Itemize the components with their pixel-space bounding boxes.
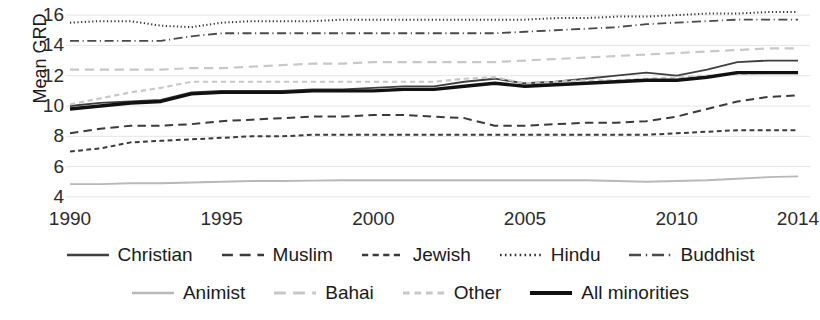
- legend-item-muslim[interactable]: Muslim: [221, 244, 333, 266]
- y-tick-label: 12: [20, 66, 64, 85]
- legend-swatch-line: [402, 286, 446, 300]
- legend-label: Christian: [118, 244, 193, 266]
- legend-item-other[interactable]: Other: [402, 282, 502, 304]
- y-tick-label: 14: [20, 35, 64, 54]
- legend-row-primary: ChristianMuslimJewishHinduBuddhist: [0, 244, 820, 266]
- legend-item-christian[interactable]: Christian: [66, 244, 193, 266]
- series-line-all-minorities: [70, 73, 798, 109]
- y-tick-label: 16: [20, 5, 64, 24]
- legend-label: Muslim: [273, 244, 333, 266]
- y-tick-label: 10: [20, 96, 64, 115]
- gridlines: [66, 15, 810, 197]
- x-tick-label: 1995: [201, 208, 243, 230]
- legend-line-icon: [273, 286, 317, 300]
- series-line-bahai: [70, 48, 798, 69]
- legend-item-jewish[interactable]: Jewish: [361, 244, 471, 266]
- legend-swatch-line: [66, 248, 110, 262]
- legend-row-secondary: AnimistBahaiOtherAll minorities: [0, 282, 820, 304]
- legend-label: All minorities: [581, 282, 689, 304]
- legend-label: Jewish: [413, 244, 471, 266]
- legend-line-icon: [402, 286, 446, 300]
- legend-item-bahai[interactable]: Bahai: [273, 282, 374, 304]
- legend-label: Hindu: [551, 244, 601, 266]
- legend-item-animist[interactable]: Animist: [131, 282, 245, 304]
- legend-swatch-line: [131, 286, 175, 300]
- series-line-buddhist: [70, 20, 798, 41]
- legend-label: Animist: [183, 282, 245, 304]
- x-tick-label: 2005: [504, 208, 546, 230]
- legend-label: Bahai: [325, 282, 374, 304]
- y-tick-label: 4: [20, 187, 64, 206]
- legend-swatch-line: [628, 248, 672, 262]
- y-axis: Mean GRD 16141210864: [8, 0, 64, 215]
- series-line-muslim: [70, 95, 798, 133]
- plot-area: [66, 6, 810, 206]
- legend-line-icon: [66, 248, 110, 262]
- series-line-jewish: [70, 130, 798, 151]
- x-tick-label: 2010: [656, 208, 698, 230]
- chart-canvas: [66, 6, 810, 206]
- x-tick-label: 1990: [49, 208, 91, 230]
- x-tick-label: 2000: [352, 208, 394, 230]
- legend-label: Other: [454, 282, 502, 304]
- y-tick-label: 8: [20, 126, 64, 145]
- legend-line-icon: [131, 286, 175, 300]
- y-tick-label: 6: [20, 157, 64, 176]
- series-line-animist: [70, 176, 798, 184]
- legend-line-icon: [628, 248, 672, 262]
- legend-item-hindu[interactable]: Hindu: [499, 244, 601, 266]
- legend-line-icon: [361, 248, 405, 262]
- legend-item-buddhist[interactable]: Buddhist: [628, 244, 754, 266]
- legend-swatch-line: [499, 248, 543, 262]
- legend-swatch-line: [361, 248, 405, 262]
- legend-line-icon: [499, 248, 543, 262]
- series-line-hindu: [70, 12, 798, 27]
- legend-label: Buddhist: [680, 244, 754, 266]
- legend-swatch-line: [221, 248, 265, 262]
- legend-line-icon: [221, 248, 265, 262]
- legend-swatch-line: [529, 286, 573, 300]
- series-group: [70, 12, 798, 184]
- legend-swatch-line: [273, 286, 317, 300]
- legend-line-icon: [529, 286, 573, 300]
- x-axis: 199019952000200520102014: [0, 208, 820, 238]
- legend-item-all-minorities[interactable]: All minorities: [529, 282, 689, 304]
- chart-figure: Mean GRD 16141210864 1990199520002005201…: [0, 0, 820, 320]
- x-tick-label: 2014: [777, 208, 819, 230]
